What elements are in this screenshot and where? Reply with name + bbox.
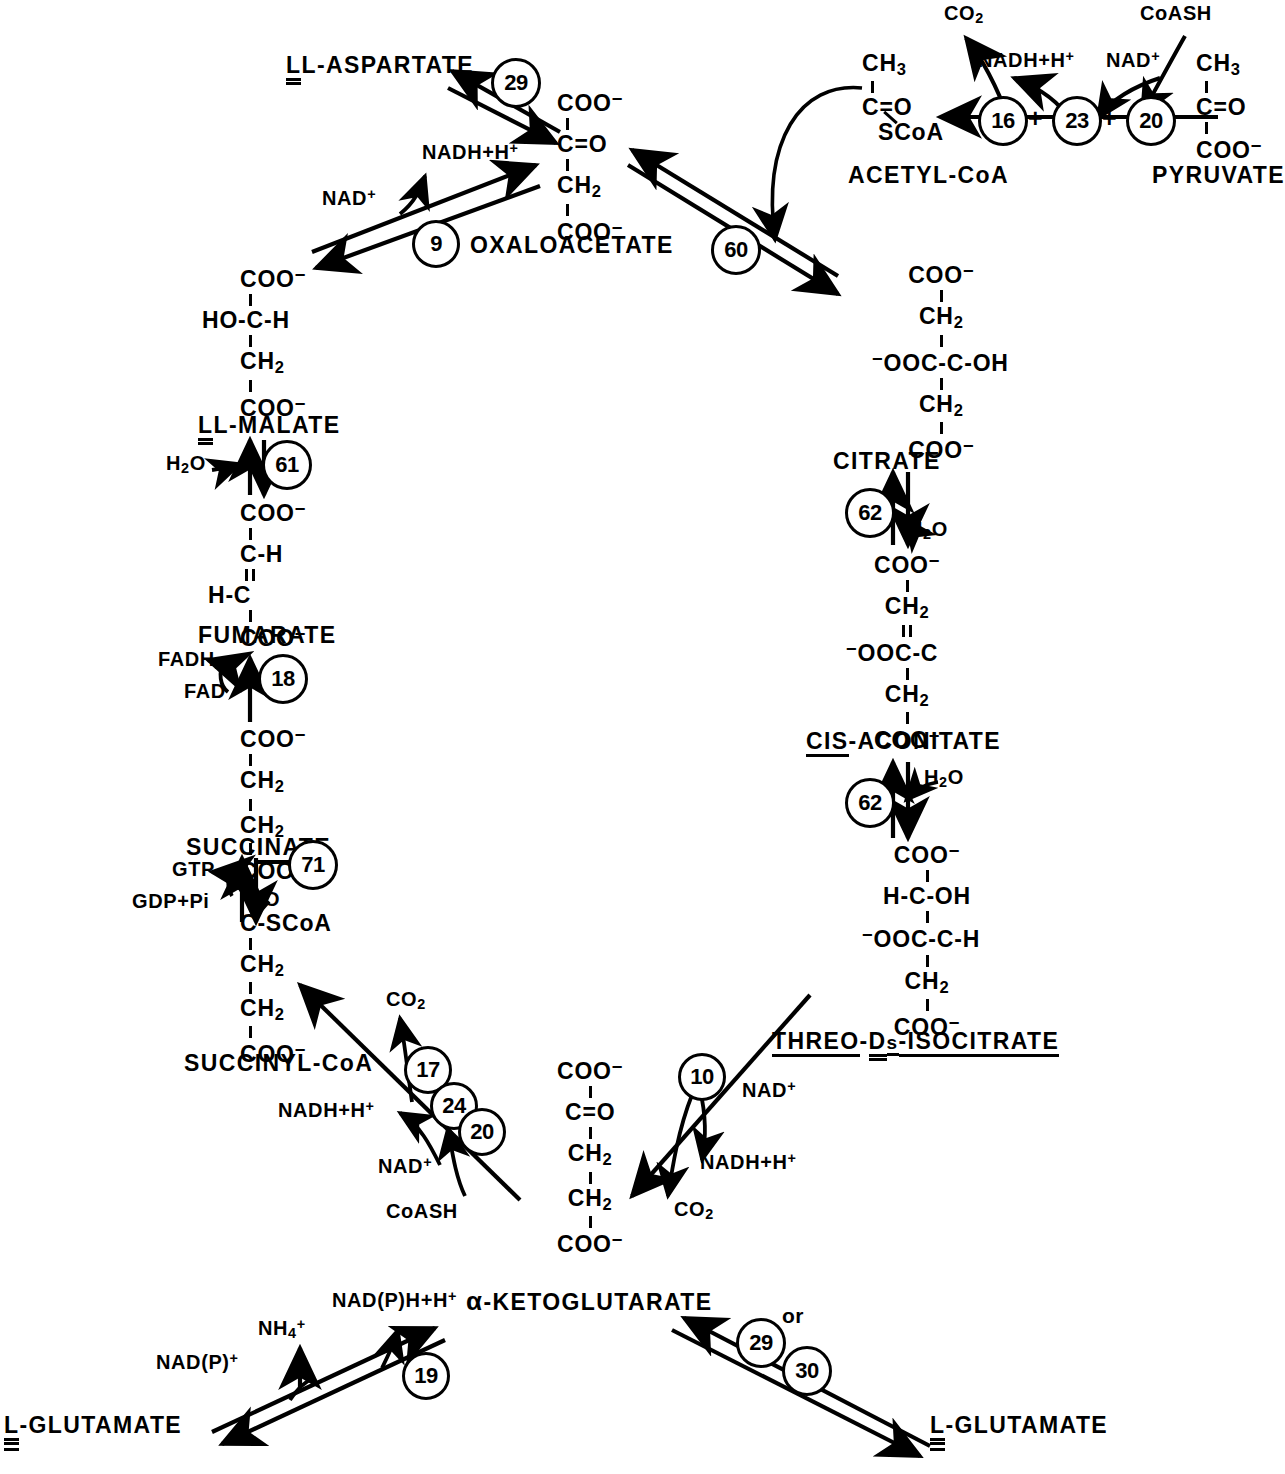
nad-label-idh: NAD+ [742,1078,796,1102]
h2o-label-aconitase1: H2O [908,518,948,542]
atom-ch2: CH2 [240,350,285,376]
atom-coo-minus: COO− [557,1058,623,1083]
enzyme-16[interactable]: 16 [978,96,1028,146]
citrate-label: CITRATE [833,448,941,475]
enzyme-30[interactable]: 30 [782,1346,832,1396]
nadph-label: NAD(P)H+H+ [332,1288,457,1312]
atom-coo-minus: COO− [557,1231,623,1256]
atom-ch2: CH2 [557,174,602,200]
enzyme-29-top[interactable]: 29 [491,58,541,108]
nadh-label-pdh: NADH+H+ [978,48,1075,72]
atom-c-scoa: C-SCoA [240,912,332,935]
l-aspartate-label: LL-ASPARTATE [286,52,474,79]
atom-c-double-o: C=O [565,1101,615,1124]
atom-ch2: CH2 [919,305,964,331]
curve-nadp-to-nh4 [290,1379,312,1400]
atom-coo-minus: COO− [240,625,306,650]
pyruvate-structure: CH3 C=O COO− [1196,52,1262,163]
acetyl-coa-label: ACETYL-CoA [848,162,1009,189]
atom-ho-c-h: HO-C-H [202,309,290,332]
acetyl-coa-structure: CH3 C=O SCoA [862,52,944,144]
cis-aconitate-structure: COO− CH2 −OOC-C CH2 COO− [874,552,940,753]
fumarate-structure: COO− C-H H-C COO− [240,500,306,651]
atom-ch3: CH3 [1196,52,1241,78]
succinyl-coa-structure: C-SCoA CH2 CH2 COO− [240,912,332,1067]
co2-label-pdh: CO2 [944,2,984,26]
enzyme-23[interactable]: 23 [1052,96,1102,146]
enzyme-62-aconitate[interactable]: 62 [845,778,895,828]
atom-carbonyl-o: O [264,888,280,911]
enzyme-20-pdh[interactable]: 20 [1126,96,1176,146]
atom-coo-minus: COO− [240,266,306,291]
nadp-label: NAD(P)+ [156,1350,239,1374]
atom-ooc-c-oh: −OOC-C-OH [872,350,1009,375]
nadh-label-idh: NADH+H+ [700,1150,797,1174]
succinyl-coa-label: SUCCINYL-CoA [184,1050,373,1077]
arrow-nadph-out [382,1330,398,1368]
atom-coo-minus: COO− [894,842,960,867]
atom-coo-minus: COO− [240,395,306,420]
gdp-pi-label: GDP+Pi [132,890,210,913]
enzyme-61[interactable]: 61 [262,440,312,490]
nadh-label-mdh: NADH+H+ [422,140,519,164]
atom-ch2: CH2 [568,1142,613,1168]
enzyme-62-citrate[interactable]: 62 [845,488,895,538]
h2o-label-aconitase2: H2O [924,766,964,790]
isocitrate-label: THREO-Ds-ISOCITRATE [772,1028,1059,1055]
l-glutamate-right-label: L-GLUTAMATE [930,1412,1108,1439]
atom-coo-minus: COO− [557,90,623,115]
atom-ch2: CH2 [568,1187,613,1213]
arrow-co2-out-idh [668,1095,692,1196]
alpha-ketoglutarate-label: α-KETOGLUTARATE [466,1286,713,1317]
arrow-gtp-out [212,872,232,874]
cis-aconitate-label: CIS-ACONITATE [806,728,1001,755]
enzyme-19[interactable]: 19 [402,1352,450,1400]
enzyme-18[interactable]: 18 [258,654,308,704]
atom-coo-minus: COO− [908,262,974,287]
atom-h-c-oh: H-C-OH [883,885,971,908]
citrate-structure: COO− CH2 −OOC-C-OH CH2 COO− [874,262,1009,463]
arrow-nad-to-nadh-mdh [400,176,425,214]
atom-ch2: CH2 [240,769,285,795]
enzyme-10[interactable]: 10 [678,1053,726,1101]
atom-coo-minus: COO− [240,500,306,525]
enzyme-20-kgdh[interactable]: 20 [458,1108,506,1156]
atom-ch2: CH2 [240,997,285,1023]
nad-label-mdh: NAD+ [322,186,376,210]
l-glutamate-left-label: L-GLUTAMATE [4,1412,182,1439]
atom-c-h: C-H [240,543,283,566]
l-malate-structure: COO− HO-C-H CH2 COO− [240,266,306,420]
atom-ch2: CH2 [905,970,950,996]
nh4-label: NH4+ [258,1316,306,1341]
fad-label: FAD [184,680,226,703]
alpha-ketoglutarate-structure: COO− C=O CH2 CH2 COO− [557,1058,623,1256]
coash-label-pdh: CoASH [1140,2,1212,25]
nad-label-pdh: NAD+ [1106,48,1160,72]
gtp-label: GTP [172,858,215,881]
enzyme-9[interactable]: 9 [412,220,460,268]
atom-h-c: H-C [208,584,251,607]
atom-ch2: CH2 [240,953,285,979]
pyruvate-label: PYRUVATE [1152,162,1285,189]
atom-ooc-c: −OOC-C [846,640,938,665]
nadh-label-kgdh: NADH+H+ [278,1098,375,1122]
fadh2-label: FADH2 [158,648,223,672]
atom-ch3: CH3 [862,52,907,78]
atom-ooc-c-h: −OOC-C-H [862,926,980,951]
oxaloacetate-structure: COO− C=O CH2 COO− [557,90,623,244]
coash-label-kgdh: CoASH [386,1200,458,1223]
enzyme-29-bottom[interactable]: 29 [736,1318,786,1368]
co2-label-idh: CO2 [674,1198,714,1222]
curve-gdp-to-gtp [228,874,232,896]
atom-ch2: CH2 [885,595,930,621]
co2-label-kgdh: CO2 [386,988,426,1012]
atom-ch2: CH2 [919,393,964,419]
isocitrate-structure: COO− H-C-OH −OOC-C-H CH2 COO− [874,842,980,1040]
or-label: or [782,1304,804,1328]
nad-label-kgdh: NAD+ [378,1154,432,1178]
enzyme-60[interactable]: 60 [711,225,761,275]
atom-ch2: CH2 [240,814,285,840]
enzyme-71[interactable]: 71 [288,840,338,890]
atom-ch2: CH2 [885,683,930,709]
